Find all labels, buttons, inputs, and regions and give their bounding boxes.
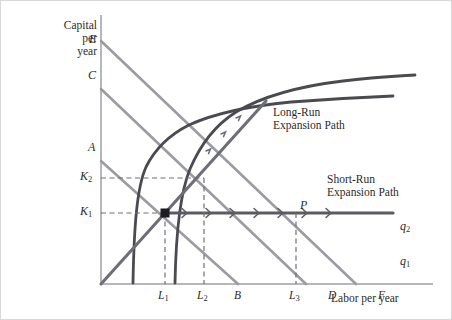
isocost-line-AB	[101, 161, 238, 284]
y-axis-mark-E-label: E	[89, 32, 96, 46]
y-axis-mark-A-label: A	[88, 140, 95, 154]
tangency-marker-L1K1	[161, 209, 170, 218]
isocost-lines	[101, 41, 356, 284]
curve-label-q2-sub: 2	[406, 224, 410, 234]
long-run-expansion-path-label-line2: Expansion Path	[273, 119, 345, 132]
figure-container: Capital per year Labor per year E C A K2…	[0, 0, 452, 320]
x-axis-mark-L3: L3	[289, 289, 300, 304]
x-axis-mark-F: F	[378, 289, 385, 302]
y-axis-mark-K1: K1	[80, 205, 92, 220]
long-run-expansion-path-label-line1: Long-Run	[273, 106, 345, 119]
y-axis-title-line1: Capital	[35, 19, 97, 32]
short-run-expansion-path-label-line1: Short-Run	[327, 173, 399, 186]
guide-lines	[101, 178, 296, 284]
y-axis-title: Capital per year	[35, 19, 97, 58]
curve-label-q1-sub: 1	[406, 259, 410, 269]
y-axis-title-line3: year	[35, 45, 97, 58]
x-axis-mark-D: D	[328, 289, 336, 302]
y-axis-mark-K2-sub: 2	[88, 174, 92, 184]
y-axis-title-line2: per	[35, 32, 97, 45]
curve-label-q2: q2	[400, 220, 410, 235]
isocost-line-EF	[101, 41, 356, 284]
x-axis-mark-D-label: D	[328, 289, 336, 301]
y-axis-mark-C-label: C	[88, 68, 96, 82]
point-label-P: P	[300, 199, 307, 212]
y-axis-mark-K1-label: K	[80, 204, 88, 218]
x-axis-mark-F-label: F	[378, 289, 385, 301]
y-axis-mark-K1-sub: 1	[88, 209, 92, 219]
y-axis-mark-E: E	[89, 33, 96, 46]
axes	[101, 15, 433, 284]
x-axis-title: Labor per year	[331, 292, 399, 305]
curve-label-q1: q1	[400, 255, 410, 270]
x-axis-mark-L3-sub: 3	[295, 293, 299, 303]
x-axis-mark-B: B	[234, 289, 241, 302]
x-axis-mark-L2-sub: 2	[203, 293, 207, 303]
x-axis-mark-L1-sub: 1	[164, 293, 168, 303]
y-axis-mark-K2-label: K	[80, 169, 88, 183]
x-axis-mark-B-label: B	[234, 289, 241, 301]
short-run-expansion-path	[165, 209, 393, 218]
x-axis-mark-L1: L1	[158, 289, 169, 304]
x-axis-mark-L2: L2	[197, 289, 208, 304]
long-run-expansion-path-label: Long-Run Expansion Path	[273, 106, 345, 132]
y-axis-mark-K2: K2	[80, 170, 92, 185]
short-run-expansion-path-label: Short-Run Expansion Path	[327, 173, 399, 199]
y-axis-mark-A: A	[88, 141, 95, 154]
short-run-expansion-path-label-line2: Expansion Path	[327, 186, 399, 199]
y-axis-mark-C: C	[88, 69, 96, 82]
